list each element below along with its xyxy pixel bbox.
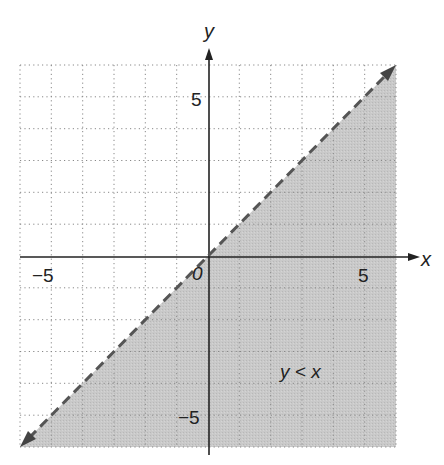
- tick-label-x-neg5: −5: [32, 265, 54, 286]
- y-axis-label: y: [202, 20, 215, 42]
- tick-label-y-5: 5: [191, 89, 202, 110]
- y-axis-arrow-icon: [205, 48, 213, 60]
- x-axis-arrow-icon: [408, 253, 420, 261]
- tick-label-y-neg5: −5: [178, 407, 200, 428]
- tick-label-x-5: 5: [358, 265, 369, 286]
- inequality-graph: y x −5 5 0 5 −5 y < x: [0, 0, 444, 465]
- x-axis-label: x: [420, 248, 432, 270]
- tick-label-origin: 0: [192, 263, 203, 284]
- region-annotation: y < x: [278, 361, 322, 382]
